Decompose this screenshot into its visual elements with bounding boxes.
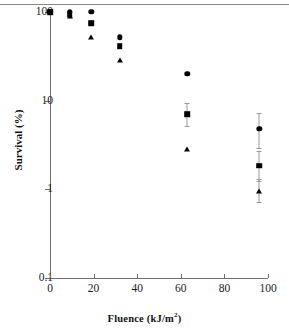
data-point-triangle [88, 34, 94, 39]
x-axis-title-superscript: 2 [174, 311, 178, 319]
x-axis-title: Fluence (kJ/m2) [0, 311, 289, 324]
y-axis-title: Survival (%) [12, 70, 24, 210]
data-point-triangle [184, 147, 190, 152]
error-bar-cap-lower [257, 202, 262, 203]
error-bar-cap-upper [257, 179, 262, 180]
figure-canvas: 0.1110100 020406080100 Fluence (kJ/m2) S… [0, 0, 289, 332]
data-point-triangle [256, 188, 262, 193]
series-triangle [0, 0, 289, 332]
data-point-triangle [67, 14, 73, 19]
data-point-triangle [47, 9, 53, 14]
data-point-triangle [117, 58, 123, 63]
